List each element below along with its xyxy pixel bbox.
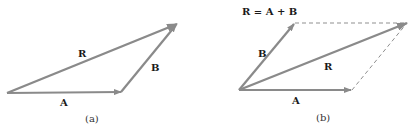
label-a: A: [59, 97, 68, 108]
vector-addition-diagram: R B A (a) R = A + B B R A (b): [0, 0, 413, 133]
panel-b: R = A + B B R A (b): [239, 6, 407, 123]
panel-a: R B A (a): [7, 24, 177, 124]
label-b: B: [258, 48, 266, 59]
label-r: R: [324, 61, 333, 72]
label-a: A: [291, 95, 300, 106]
vector-a: [7, 92, 121, 93]
vector-r: [7, 24, 177, 93]
equation: R = A + B: [242, 6, 297, 17]
label-r: R: [78, 48, 87, 59]
label-b: B: [151, 62, 159, 73]
caption-a: (a): [85, 113, 99, 124]
caption-b: (b): [316, 112, 330, 123]
